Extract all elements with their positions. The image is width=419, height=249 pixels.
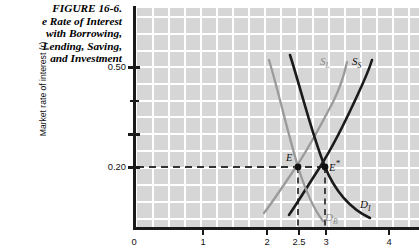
x-tick-mark-3	[325, 228, 327, 235]
curve-label-S-L: SL	[320, 55, 330, 70]
curve-label-D-B-sub: B	[333, 217, 338, 226]
x-tick-label-2: 2	[254, 236, 280, 247]
point-label-E-star: E*	[329, 158, 340, 173]
curve-layer	[137, 8, 419, 228]
y-tick-label-0.20: 0.20	[92, 161, 126, 172]
curve-S-S	[289, 60, 372, 215]
y-tick-label-0.50: 0.50	[92, 61, 126, 72]
y-tick-mark-minor-0.30	[128, 133, 140, 136]
x-axis-line	[133, 227, 419, 230]
curve-label-D-I: DI	[360, 198, 370, 213]
caption-line-1: FIGURE 16-6.	[0, 2, 122, 15]
caption-line-3: with Borrowing,	[0, 27, 122, 40]
x-tick-mark-4	[388, 228, 390, 235]
x-tick-mark-1	[202, 228, 204, 235]
curve-label-S-S: SS	[352, 55, 361, 70]
y-tick-mark-0.20	[128, 166, 140, 169]
curve-label-S-L-sub: L	[326, 61, 330, 70]
x-tick-label-2.5: 2.5	[286, 236, 312, 247]
caption-line-2: e Rate of Interest	[0, 15, 122, 28]
y-tick-mark-0.50	[128, 66, 140, 69]
caption-line-4: Lending, Saving,	[0, 40, 122, 53]
point-marker-E-star	[322, 164, 329, 171]
y-axis-line	[133, 6, 136, 230]
x-tick-label-3: 3	[313, 236, 339, 247]
point-label-E-star-sup: *	[335, 158, 339, 168]
point-marker-E	[295, 164, 302, 171]
x-tick-label-0: 0	[121, 236, 147, 247]
curve-label-D-B: DB	[325, 211, 338, 226]
curve-label-D-B-text: D	[325, 211, 333, 223]
y-axis-title: Market rate of interest (r)	[38, 29, 48, 149]
figure-container: FIGURE 16-6. e Rate of Interest with Bor…	[0, 0, 419, 249]
figure-caption: FIGURE 16-6. e Rate of Interest with Bor…	[0, 2, 122, 65]
x-tick-label-1: 1	[190, 236, 216, 247]
curve-label-D-I-text: D	[360, 198, 368, 210]
point-label-E: E	[286, 152, 292, 163]
curve-label-S-S-sub: S	[358, 61, 362, 70]
x-tick-mark-2.5	[298, 228, 300, 235]
curve-label-D-I-sub: I	[368, 204, 371, 213]
x-tick-label-4: 4	[376, 236, 402, 247]
y-tick-mark-minor-0.40	[130, 100, 139, 102]
x-tick-mark-2	[266, 228, 268, 235]
